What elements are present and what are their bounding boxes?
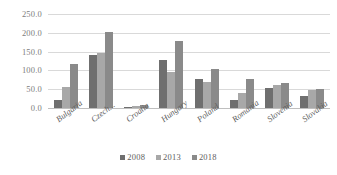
legend-item[interactable]: 2018 [192, 152, 217, 162]
bar [230, 100, 238, 108]
x-axis-category: Romania [224, 110, 259, 150]
legend-item[interactable]: 2013 [156, 152, 181, 162]
bar-group [189, 14, 224, 108]
bar [105, 32, 113, 108]
y-axis: 0.050.0100.0150.0200.0250.0 [0, 0, 45, 122]
legend-label: 2008 [127, 152, 145, 162]
y-axis-tick-label: 0.0 [31, 103, 42, 113]
bar [97, 53, 105, 108]
bar [167, 72, 175, 108]
bar-group [260, 14, 295, 108]
x-axis-category: Hungary [154, 110, 189, 150]
y-axis-tick-label: 200.0 [22, 28, 42, 38]
x-axis-category: Bulgaria [48, 110, 83, 150]
y-axis-tick-label: 250.0 [22, 9, 42, 19]
x-axis-category: Croatia [119, 110, 154, 150]
bar [54, 100, 62, 108]
bar-group [48, 14, 83, 108]
y-axis-tick-label: 100.0 [22, 65, 42, 75]
bar [89, 55, 97, 108]
x-axis-category: Czech... [83, 110, 118, 150]
legend-label: 2018 [199, 152, 217, 162]
bar-series-container [48, 14, 330, 108]
y-axis-tick-label: 50.0 [26, 84, 42, 94]
bar [195, 79, 203, 108]
x-axis-category: Poland [189, 110, 224, 150]
bar-group [224, 14, 259, 108]
x-axis-category: Slovakia [295, 110, 330, 150]
bar-group [119, 14, 154, 108]
x-axis-category: Slovenia [260, 110, 295, 150]
legend-label: 2013 [163, 152, 181, 162]
y-axis-tick-label: 150.0 [22, 47, 42, 57]
legend-swatch-icon [120, 155, 125, 160]
bar-group [295, 14, 330, 108]
legend-swatch-icon [156, 155, 161, 160]
bar-chart: 0.050.0100.0150.0200.0250.0 BulgariaCzec… [0, 0, 337, 175]
bar-group [83, 14, 118, 108]
x-axis: BulgariaCzech...CroatiaHungaryPolandRoma… [48, 110, 330, 150]
bar [265, 88, 273, 108]
legend-item[interactable]: 2008 [120, 152, 145, 162]
bar-group [154, 14, 189, 108]
legend-swatch-icon [192, 155, 197, 160]
chart-legend: 200820132018 [0, 152, 337, 162]
bar [124, 107, 132, 109]
bar [300, 96, 308, 108]
bar [159, 60, 167, 108]
